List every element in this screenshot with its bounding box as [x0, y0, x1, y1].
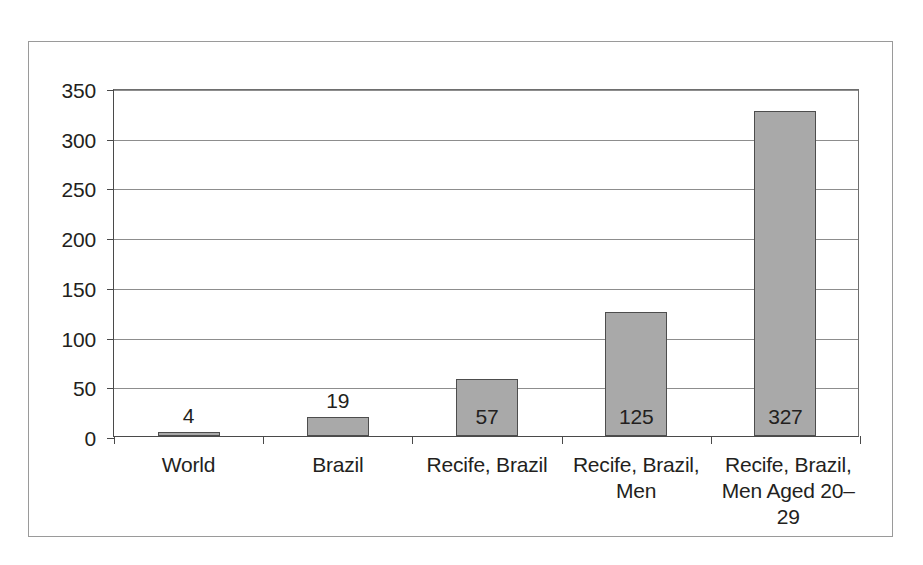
y-axis-label-150: 150 — [62, 278, 96, 302]
bar-recife-brazil-men[interactable]: 125 — [605, 312, 667, 436]
y-axis-label-200: 200 — [62, 228, 96, 252]
x-axis-tick-4 — [711, 436, 712, 444]
bar-recife-brazil-men-aged-20-29[interactable]: 327 — [754, 111, 816, 436]
y-axis-label-50: 50 — [73, 377, 96, 401]
y-axis-tick-350: 350 — [107, 90, 114, 91]
y-axis-tick-150: 150 — [107, 289, 114, 290]
x-axis-tick-2 — [412, 436, 413, 444]
x-axis-category-label-recife-brazil-men-aged-20-29-line-1: Recife, Brazil, — [711, 452, 866, 478]
x-axis-tick-1 — [263, 436, 264, 444]
y-axis-label-0: 0 — [85, 427, 96, 451]
y-axis-label-100: 100 — [62, 328, 96, 352]
bar-value-recife-brazil-men: 125 — [606, 405, 666, 429]
x-axis-category-label-recife-brazil-men-aged-20-29: Recife, Brazil, Men Aged 20–29 — [711, 452, 866, 530]
x-axis-tick-3 — [562, 436, 563, 444]
x-axis-category-label-brazil: Brazil — [263, 452, 412, 478]
x-axis-category-label-recife-brazil-men-line-2: Men — [562, 478, 711, 504]
x-axis-category-label-world-line-1: World — [114, 452, 263, 478]
bar-value-recife-brazil-men-aged-20-29: 327 — [755, 405, 815, 429]
bar-value-brazil: 19 — [308, 389, 368, 413]
x-axis-category-label-world: World — [114, 452, 263, 478]
x-axis-category-label-recife-brazil: Recife, Brazil — [412, 452, 561, 478]
y-axis-tick-200: 200 — [107, 239, 114, 240]
y-axis-tick-300: 300 — [107, 140, 114, 141]
x-axis-category-label-brazil-line-1: Brazil — [263, 452, 412, 478]
chart-plot-area: 350 300 250 200 150 100 50 0 — [113, 89, 859, 437]
bar-value-world: 4 — [159, 404, 219, 428]
gridline-250 — [114, 189, 858, 190]
y-axis-tick-100: 100 — [107, 339, 114, 340]
x-axis-category-label-recife-brazil-line-1: Recife, Brazil — [412, 452, 561, 478]
y-axis-label-300: 300 — [62, 129, 96, 153]
bar-value-recife-brazil: 57 — [457, 405, 517, 429]
y-axis-tick-0: 0 — [107, 438, 114, 439]
bar-recife-brazil[interactable]: 57 — [456, 379, 518, 436]
x-axis-category-label-recife-brazil-men-aged-20-29-line-2: Men Aged 20–29 — [711, 478, 866, 530]
gridline-150 — [114, 289, 858, 290]
gridline-300 — [114, 140, 858, 141]
y-axis-label-250: 250 — [62, 178, 96, 202]
gridline-350 — [114, 90, 858, 91]
y-axis-label-350: 350 — [62, 79, 96, 103]
y-axis-tick-50: 50 — [107, 388, 114, 389]
chart-figure-frame: 350 300 250 200 150 100 50 0 — [28, 41, 893, 537]
bar-brazil[interactable]: 19 — [307, 417, 369, 436]
x-axis-category-label-recife-brazil-men-line-1: Recife, Brazil, — [562, 452, 711, 478]
x-axis-tick-5 — [860, 436, 861, 444]
y-axis-tick-250: 250 — [107, 189, 114, 190]
x-axis-category-label-recife-brazil-men: Recife, Brazil, Men — [562, 452, 711, 504]
x-axis-tick-0 — [114, 436, 115, 444]
gridline-100 — [114, 339, 858, 340]
gridline-200 — [114, 239, 858, 240]
bar-world[interactable]: 4 — [158, 432, 220, 436]
